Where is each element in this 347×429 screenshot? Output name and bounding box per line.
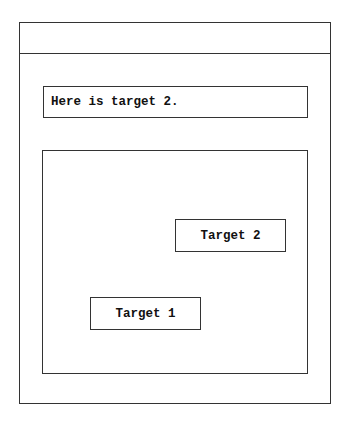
target-1-button[interactable]: Target 1	[90, 297, 201, 330]
instruction-text: Here is target 2.	[43, 86, 308, 118]
task-window: Here is target 2. Target 2 Target 1	[19, 22, 331, 404]
target-area: Target 2 Target 1	[42, 150, 308, 374]
target-1-label: Target 1	[115, 307, 175, 321]
target-2-button[interactable]: Target 2	[175, 219, 286, 252]
target-2-label: Target 2	[200, 229, 260, 243]
title-bar	[20, 23, 330, 54]
instruction-label: Here is target 2.	[51, 95, 179, 109]
